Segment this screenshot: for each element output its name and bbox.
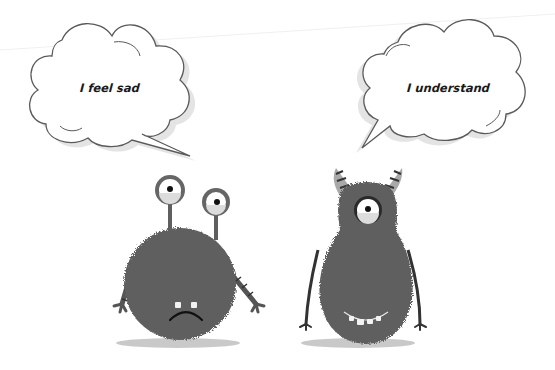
sad-monster-body [124, 228, 236, 340]
tooth [376, 316, 381, 321]
cyclops-monster [300, 168, 426, 344]
speech-text-left: I feel sad [80, 81, 141, 95]
illustration-canvas [0, 0, 555, 370]
tooth [357, 319, 364, 325]
speech-text-right: I understand [407, 81, 491, 95]
eye-left [155, 175, 185, 205]
right-hand [252, 304, 264, 312]
tooth [191, 302, 197, 308]
left-arm [306, 250, 318, 324]
left-hand [114, 304, 126, 312]
sad-monster [114, 175, 264, 340]
tooth [175, 302, 181, 308]
tooth [367, 319, 373, 324]
left-hand [300, 324, 311, 330]
illustration-scene: I feel sad I understand [0, 0, 555, 370]
tooth [349, 316, 354, 321]
cyclops-eye [354, 196, 382, 224]
eye-right [202, 188, 230, 216]
right-hand [415, 324, 426, 330]
